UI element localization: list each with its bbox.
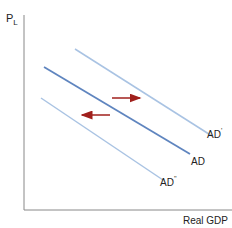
ad-double-prime-label: AD'' <box>160 175 177 188</box>
ad-diagram: PL Real GDP AD' AD AD'' <box>0 0 232 228</box>
ad-curve <box>44 67 190 154</box>
ad-double-prime-curve <box>41 98 163 180</box>
ad-label: AD <box>191 156 205 167</box>
x-axis-label: Real GDP <box>183 215 228 226</box>
y-axis-label: PL <box>6 12 18 27</box>
ad-prime-curve <box>75 49 212 136</box>
ad-prime-label: AD' <box>207 127 222 140</box>
